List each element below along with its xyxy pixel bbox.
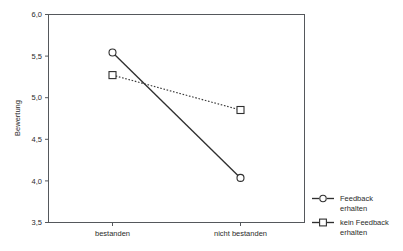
legend-label-line2: erhalten [340, 204, 367, 213]
data-point-marker [237, 107, 244, 114]
line-chart: 3,5 4,0 4,5 5,0 5,5 6,0 Bewertung bestan… [0, 0, 403, 251]
x-tick-label-nicht-bestanden: nicht bestanden [214, 229, 267, 238]
legend-label-line1: Feedback [340, 194, 373, 203]
y-tick-label: 6,0 [32, 10, 42, 19]
data-point-marker [109, 49, 116, 56]
x-tick-label-bestanden: bestanden [95, 229, 130, 238]
y-axis-ticks [45, 15, 49, 223]
chart-canvas: 3,5 4,0 4,5 5,0 5,5 6,0 Bewertung bestan… [0, 0, 403, 251]
y-tick-label: 5,0 [32, 93, 42, 102]
y-axis-tick-labels: 3,5 4,0 4,5 5,0 5,5 6,0 [32, 10, 42, 227]
plot-frame [49, 15, 305, 223]
legend-label-line2: erhalten [340, 228, 367, 237]
y-tick-label: 4,5 [32, 135, 42, 144]
legend-item-kein-feedback-erhalten[interactable]: kein Feedback erhalten [312, 218, 389, 237]
y-tick-label: 5,5 [32, 52, 42, 61]
circle-marker-icon [320, 195, 326, 201]
data-point-marker [109, 72, 116, 79]
series-kein-feedback-erhalten [109, 72, 244, 114]
x-axis-ticks [113, 223, 241, 227]
square-marker-icon [320, 219, 327, 226]
series-feedback-erhalten [109, 49, 244, 181]
y-tick-label: 3,5 [32, 218, 42, 227]
y-axis-title: Bewertung [13, 100, 22, 136]
legend-label-line1: kein Feedback [340, 218, 389, 227]
data-point-marker [237, 174, 244, 181]
y-tick-label: 4,0 [32, 177, 42, 186]
legend-item-feedback-erhalten[interactable]: Feedback erhalten [312, 194, 373, 213]
chart-legend: Feedback erhalten kein Feedback erhalten [312, 194, 389, 237]
